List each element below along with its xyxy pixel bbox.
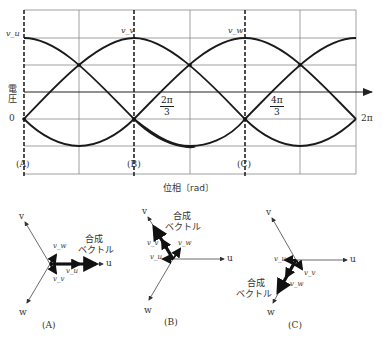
axis-u-label-b: u — [227, 254, 233, 263]
instant-a-label: (A) — [16, 160, 30, 169]
axis-w-label-b: w — [144, 306, 152, 315]
axis-w-label-a: w — [19, 308, 27, 317]
phase-mark-2pi3: 2π 3 — [160, 96, 174, 117]
resultant-label-b-2: ベクトル — [165, 223, 201, 232]
vv-label-c: v_v — [304, 270, 315, 277]
y-axis-label: 電圧 — [7, 84, 16, 104]
curve-label-vv: v_v — [121, 27, 134, 35]
vu-label-a: v_u — [66, 268, 78, 275]
axis-u-label-c: u — [350, 255, 356, 264]
vv-label-a: v_v — [53, 276, 64, 283]
axis-w-label-c: w — [267, 308, 275, 317]
resultant-label-c-1: 合成 — [247, 279, 265, 288]
resultant-label-a-2: ベクトル — [78, 246, 114, 255]
axis-v-label-c: v — [266, 208, 271, 217]
caption-c: (C) — [288, 321, 302, 330]
zero-label: 0 — [9, 114, 15, 123]
vu-label-b: v_u — [150, 254, 162, 261]
peak-label: v_u — [6, 30, 20, 38]
vw-label-b: v_w — [178, 240, 191, 247]
vv-label-b: v_v — [147, 240, 158, 247]
instant-c-label: (C) — [237, 160, 251, 169]
resultant-label-b-1: 合成 — [173, 212, 191, 221]
waveform-graph — [0, 0, 382, 342]
vu-label-c: v_u — [274, 256, 286, 263]
axis-v-label-a: v — [19, 212, 24, 221]
axis-u-label-a: u — [106, 259, 112, 268]
caption-a: (A) — [42, 321, 56, 330]
curve-label-vw: v_w — [228, 27, 243, 35]
instant-lines — [24, 10, 245, 176]
caption-b: (B) — [164, 318, 178, 327]
instant-b-label: (B) — [127, 160, 141, 169]
phase-mark-4pi3: 4π 3 — [270, 96, 284, 117]
vw-label-a: v_w — [53, 243, 66, 250]
resultant-label-c-2: ベクトル — [236, 290, 272, 299]
vw-label-c: v_w — [290, 281, 303, 288]
end-label: 2π — [361, 114, 373, 123]
x-axis-label: 位相〔rad〕 — [163, 184, 214, 193]
axis-v-label-b: v — [142, 207, 147, 216]
resultant-label-a-1: 合成 — [85, 235, 103, 244]
